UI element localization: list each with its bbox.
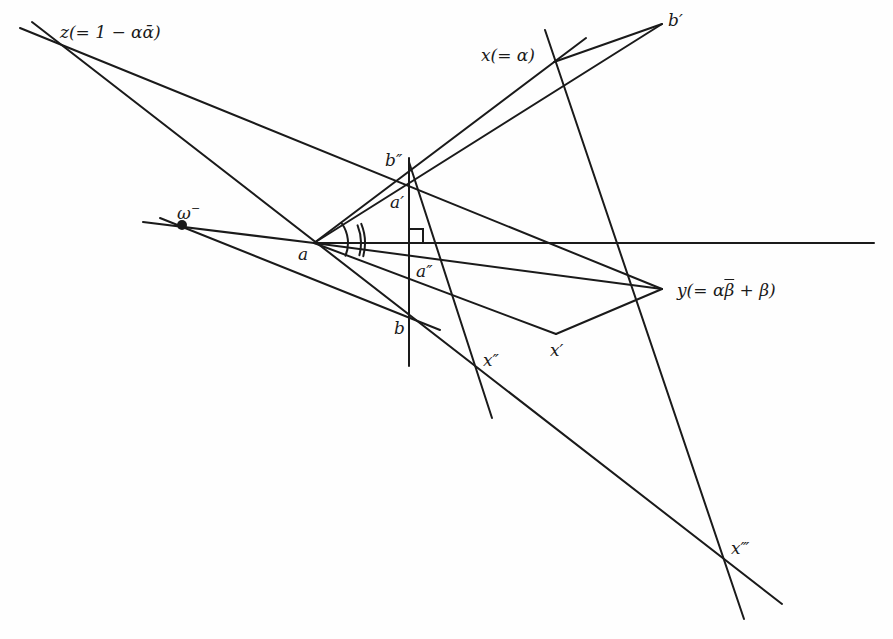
line-omega-to-a xyxy=(143,222,314,243)
label-b-prime: b′ xyxy=(668,12,683,29)
right-angle-mark xyxy=(409,229,423,243)
single-arc xyxy=(342,223,348,255)
label-z: z(= 1 − αᾱ) xyxy=(60,24,161,41)
label-x-prime: x′ xyxy=(550,342,563,359)
line-z-through-b-to-xtprime xyxy=(32,22,782,604)
label-y: y(= αβ + β) xyxy=(677,282,776,299)
line-bdprime-to-xdprime xyxy=(409,162,492,418)
label-b-double-prime: b″ xyxy=(385,152,402,169)
diagram-lines xyxy=(0,0,893,639)
label-b: b xyxy=(394,320,405,337)
line-x-to-xtprime xyxy=(545,30,744,619)
line-bprime-to-x xyxy=(554,24,662,62)
double-arc-inner xyxy=(358,225,361,255)
label-a-prime: a′ xyxy=(390,194,404,211)
label-omega: ω− xyxy=(177,203,200,222)
label-x: x(= α) xyxy=(481,47,535,64)
geometric-diagram: z(= 1 − αᾱ) x(= α) b′ b″ a′ ω− a a″ y(= … xyxy=(0,0,893,639)
label-a: a xyxy=(298,246,308,263)
line-a-to-xprime xyxy=(314,243,556,334)
label-x-double-prime: x″ xyxy=(483,352,499,369)
label-a-double-prime: a″ xyxy=(416,263,433,280)
line-z-to-y xyxy=(20,28,662,289)
label-x-triple-prime: x‴ xyxy=(731,540,749,557)
line-a-to-x xyxy=(314,38,586,243)
